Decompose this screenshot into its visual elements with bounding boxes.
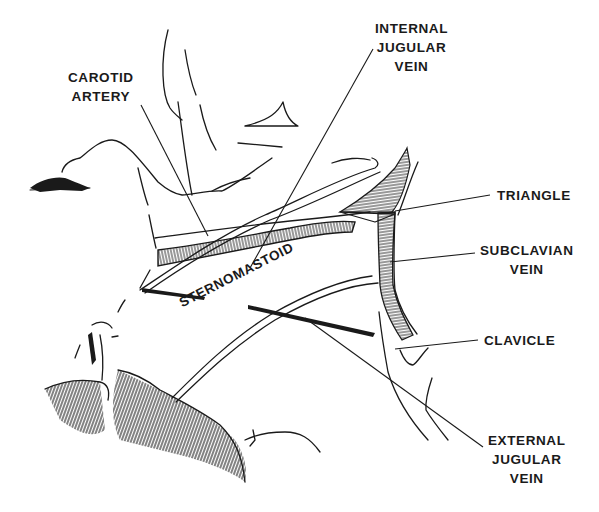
label-clavicle: CLAVICLE <box>484 331 555 350</box>
clavicle-outline <box>379 312 448 440</box>
label-internal-jugular-vein: INTERNAL JUGULAR VEIN <box>375 19 448 76</box>
anatomy-diagram: CAROTID ARTERY INTERNAL JUGULAR VEIN TRI… <box>0 0 599 512</box>
label-triangle: TRIANGLE <box>497 186 571 205</box>
jaw-outline <box>62 30 298 195</box>
hair-shading-left <box>30 177 90 192</box>
label-subclavian-vein: SUBCLAVIAN VEIN <box>480 241 574 279</box>
label-external-jugular-vein: EXTERNAL JUGULAR VEIN <box>488 431 566 488</box>
chin-profile <box>75 322 118 380</box>
label-carotid-artery: CAROTID ARTERY <box>68 68 134 106</box>
subclavian-band <box>378 212 417 340</box>
